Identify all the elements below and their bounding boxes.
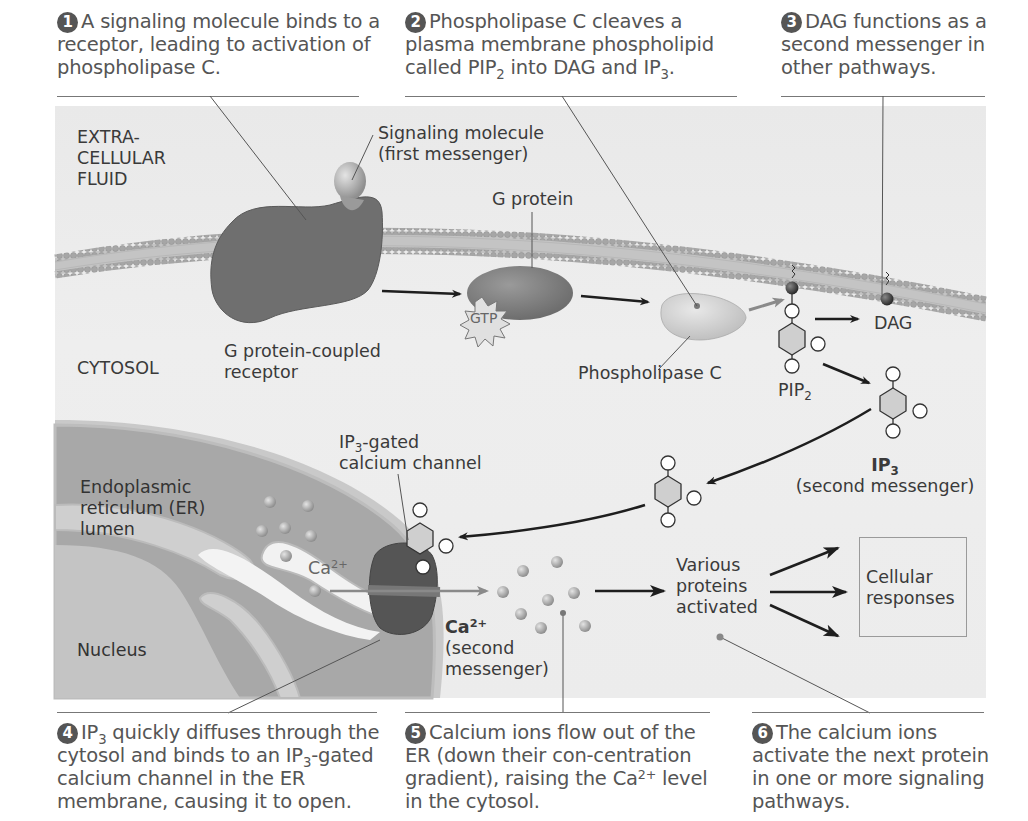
label-ca-cytosol-title: Ca2+ — [445, 617, 549, 638]
label-ca-cytosol-line3: messenger) — [445, 659, 549, 680]
label-gpcr: G protein-coupled receptor — [224, 341, 381, 383]
step-4-caption: 4IP3 quickly diffuses through the cytoso… — [57, 721, 387, 813]
step-4-badge: 4 — [57, 723, 78, 744]
label-channel-line1: IP3-gated — [339, 432, 482, 453]
label-extracellular-fluid: EXTRA- CELLULAR FLUID — [77, 127, 166, 190]
label-cellular-responses: Cellular responses — [866, 567, 955, 609]
label-ca-er-sup: 2+ — [331, 557, 348, 571]
label-various-proteins: Various proteins activated — [676, 555, 758, 618]
label-responses-line2: responses — [866, 588, 955, 609]
label-various-line2: proteins — [676, 576, 758, 597]
label-gpcr-line1: G protein-coupled — [224, 341, 381, 362]
label-gtp: GTP — [470, 308, 497, 329]
label-signaling-line2: (first messenger) — [378, 144, 544, 165]
phospholipase-c — [661, 294, 746, 340]
label-signaling-molecule: Signaling molecule (first messenger) — [378, 123, 544, 165]
label-nucleus: Nucleus — [77, 640, 147, 661]
signaling-molecule — [334, 162, 366, 200]
label-ca-cytosol: Ca2+ (second messenger) — [445, 617, 549, 680]
step-5-sup: 2+ — [638, 767, 656, 782]
step-5-rule — [405, 712, 710, 713]
label-ip3-gated-channel: IP3-gated calcium channel — [339, 432, 482, 474]
label-ca-er: Ca2+ — [308, 558, 348, 579]
label-gpcr-line2: receptor — [224, 362, 381, 383]
label-ip3-title: IP3 — [790, 455, 980, 476]
label-various-line1: Various — [676, 555, 758, 576]
gpcr-receptor — [211, 197, 383, 323]
ip3-molecule — [880, 367, 927, 438]
label-ip3-note: (second messenger) — [790, 476, 980, 497]
label-responses-line1: Cellular — [866, 567, 955, 588]
label-phospholipase-c: Phospholipase C — [578, 363, 722, 384]
label-pip2-base: PIP — [778, 380, 804, 400]
label-ca-cytosol-sup: 2+ — [470, 616, 487, 630]
step-5-caption: 5Calcium ions flow out of the ER (down t… — [405, 721, 720, 813]
step-6-text: The calcium ions activate the next prote… — [752, 721, 989, 813]
ip3-molecule-diffusing — [655, 456, 701, 527]
step-6-badge: 6 — [752, 723, 773, 744]
label-dag: DAG — [874, 313, 912, 334]
label-er-line3: lumen — [80, 519, 205, 540]
label-various-line3: activated — [676, 597, 758, 618]
label-er-line1: Endoplasmic — [80, 477, 205, 498]
step-5-badge: 5 — [405, 723, 426, 744]
label-er-lumen: Endoplasmic reticulum (ER) lumen — [80, 477, 205, 540]
label-ca-cytosol-base: Ca — [445, 617, 470, 637]
label-ip3-base: IP — [871, 455, 890, 475]
label-pip2: PIP2 — [778, 380, 812, 401]
label-extracellular-line2: CELLULAR — [77, 148, 166, 169]
label-ca-cytosol-line2: (second — [445, 638, 549, 659]
step-6-rule — [752, 712, 984, 713]
label-channel-base: IP — [339, 432, 355, 452]
step-4-text-a: IP — [81, 721, 98, 744]
step-4-rule — [57, 712, 377, 713]
label-channel-rest: -gated — [362, 432, 419, 452]
label-ca-er-base: Ca — [308, 558, 331, 578]
label-er-line2: reticulum (ER) — [80, 498, 205, 519]
label-ip3: IP3 (second messenger) — [790, 455, 980, 497]
label-cytosol: CYTOSOL — [77, 358, 159, 379]
label-extracellular-line3: FLUID — [77, 169, 166, 190]
label-extracellular-line1: EXTRA- — [77, 127, 166, 148]
label-g-protein: G protein — [492, 189, 573, 210]
label-signaling-line1: Signaling molecule — [378, 123, 544, 144]
label-channel-line2: calcium channel — [339, 453, 482, 474]
label-pip2-sub: 2 — [804, 389, 812, 403]
step-6-caption: 6The calcium ions activate the next prot… — [752, 721, 1002, 813]
